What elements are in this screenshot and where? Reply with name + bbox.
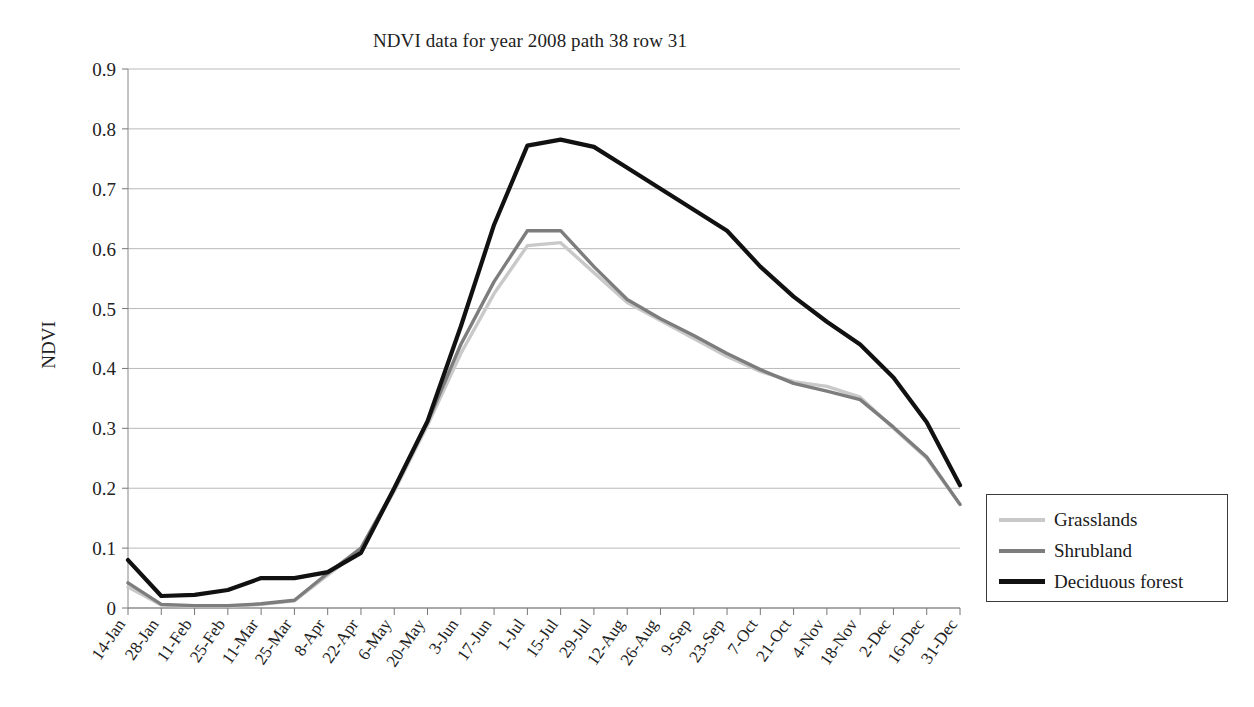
legend-item-label: Deciduous forest — [1054, 572, 1183, 591]
y-tick-label: 0.1 — [92, 538, 116, 559]
y-axis-title: NDVI — [38, 321, 59, 369]
x-tick-label: 15-Jul — [522, 615, 562, 661]
x-tick-label: 31-Dec — [917, 615, 962, 667]
y-tick-label: 0.9 — [92, 59, 116, 80]
y-tick-label: 0.2 — [92, 478, 116, 499]
legend-item: Deciduous forest — [987, 566, 1227, 597]
series-line-shrubland — [128, 231, 960, 606]
y-tick-label: 0.3 — [92, 418, 116, 439]
legend-swatch-line-icon — [999, 549, 1045, 553]
legend-item-label: Grasslands — [1054, 510, 1137, 529]
y-tick-label: 0.7 — [92, 179, 116, 200]
y-tick-label: 0.8 — [92, 119, 116, 140]
chart-legend: GrasslandsShrublandDeciduous forest — [986, 494, 1228, 602]
x-tick-label: 22-Apr — [319, 615, 363, 666]
x-axis-ticks: 14-Jan28-Jan11-Feb25-Feb11-Mar25-Mar8-Ap… — [88, 608, 962, 670]
x-tick-label: 17-Jun — [453, 615, 495, 664]
x-tick-label: 23-Sep — [685, 615, 728, 665]
x-tick-label: 14-Jan — [88, 615, 130, 663]
y-tick-label: 0.5 — [92, 299, 116, 320]
series-line-deciduous-forest — [128, 140, 960, 596]
legend-item: Grasslands — [987, 504, 1227, 535]
legend-item-label: Shrubland — [1054, 541, 1132, 560]
y-tick-label: 0.4 — [92, 358, 116, 379]
series-line-grasslands — [128, 243, 960, 607]
x-tick-label: 21-Oct — [752, 615, 795, 665]
gridlines — [128, 69, 960, 608]
ndvi-line-chart: NDVI data for year 2008 path 38 row 31 0… — [0, 0, 1254, 707]
legend-swatch-line-icon — [999, 579, 1045, 584]
legend-swatch-line-icon — [999, 518, 1045, 522]
data-series — [128, 140, 960, 607]
legend-item: Shrubland — [987, 535, 1227, 566]
y-tick-label: 0.6 — [92, 239, 116, 260]
y-tick-label: 0 — [107, 598, 117, 619]
y-axis-ticks: 00.10.20.30.40.50.60.70.80.9 — [92, 59, 128, 619]
